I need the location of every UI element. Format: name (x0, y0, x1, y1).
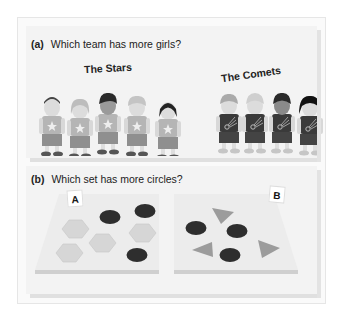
kid-boy-1 (39, 97, 65, 156)
kid-boy-2 (242, 93, 268, 154)
team-comets-illustration (209, 82, 329, 157)
panel-teams: (a)Which team has more girls? The Stars … (26, 26, 317, 158)
kid-boy-1 (216, 94, 242, 154)
question-a: (a)Which team has more girls? (31, 38, 181, 50)
set-b-tray (174, 194, 298, 274)
question-b-text: Which set has more circles? (51, 173, 182, 185)
question-a-label: (a) (31, 38, 44, 50)
panel-shadow (30, 158, 321, 162)
question-a-text: Which team has more girls? (51, 38, 181, 50)
panel-shadow (30, 294, 321, 298)
team-stars-title: The Stars (84, 61, 132, 75)
panel-sets: (b)Which set has more circles? (26, 166, 317, 294)
kid-girl-2 (155, 102, 181, 156)
kid-boy-3 (124, 96, 150, 156)
question-b-label: (b) (31, 173, 44, 185)
question-b: (b)Which set has more circles? (31, 173, 183, 185)
figure-frame: (a)Which team has more girls? The Stars … (17, 17, 326, 304)
set-a-tray (35, 194, 159, 274)
kid-girl-1 (67, 99, 93, 156)
kid-boy-2 (95, 93, 121, 155)
set-b-label-card: B (268, 185, 285, 203)
kid-boy-3 (269, 93, 295, 154)
kid-girl-1 (297, 96, 323, 156)
set-a-label-card: A (66, 189, 83, 207)
team-stars-illustration (30, 76, 190, 156)
